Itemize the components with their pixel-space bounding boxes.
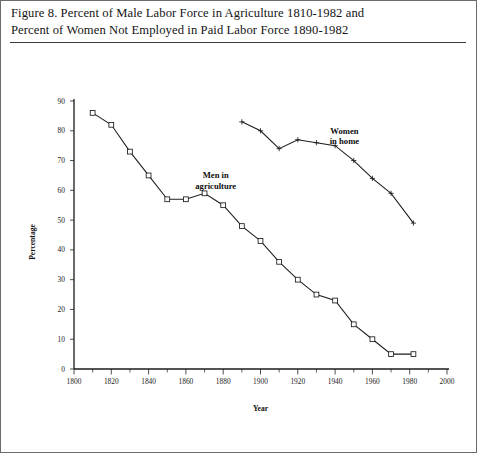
series-line [93, 113, 414, 354]
data-point-marker [165, 197, 170, 202]
x-tick-label: 1900 [253, 377, 268, 386]
data-point-marker [277, 259, 282, 264]
caption-line-2: Percent of Women Not Employed in Paid La… [11, 22, 463, 39]
x-tick-label: 1840 [141, 377, 156, 386]
data-point-marker [239, 224, 244, 229]
y-axis-tick-labels: 0102030405060708090 [58, 97, 66, 374]
x-tick-label: 1820 [104, 377, 119, 386]
data-series-group [90, 111, 416, 357]
data-point-marker [202, 191, 207, 196]
caption-divider [10, 42, 466, 43]
x-tick-label: 1940 [328, 377, 343, 386]
x-tick-label: 2000 [440, 377, 455, 386]
y-tick-label: 70 [58, 156, 66, 165]
x-axis-label: Year [253, 404, 269, 413]
x-tick-label: 1980 [402, 377, 417, 386]
data-point-marker [128, 149, 133, 154]
figure-caption: Figure 8. Percent of Male Labor Force in… [11, 5, 463, 38]
y-tick-label: 40 [58, 245, 66, 254]
y-tick-label: 60 [58, 186, 66, 195]
chart-canvas: 0102030405060708090 18001820184018601880… [1, 47, 477, 447]
figure-page: Figure 8. Percent of Male Labor Force in… [0, 0, 477, 453]
series-annotations: Men inagricultureWomenin home [195, 126, 359, 191]
caption-line-1: Figure 8. Percent of Male Labor Force in… [11, 5, 463, 22]
x-axis-ticks [74, 369, 447, 375]
data-point-marker [389, 352, 394, 357]
y-tick-label: 80 [58, 126, 66, 135]
x-axis-tick-labels: 1800182018401860188019001920194019601980… [67, 377, 455, 386]
data-point-marker [333, 298, 338, 303]
data-point-marker [258, 239, 263, 244]
data-point-marker [184, 197, 189, 202]
data-point-marker [109, 122, 114, 127]
series-annotation-2: Womenin home [330, 126, 360, 147]
y-axis-label: Percentage [28, 224, 37, 260]
series-2 [239, 119, 416, 225]
data-point-marker [295, 277, 300, 282]
data-point-marker [351, 322, 356, 327]
x-tick-label: 1880 [216, 377, 231, 386]
x-tick-label: 1960 [365, 377, 380, 386]
data-point-marker [370, 337, 375, 342]
y-tick-label: 0 [61, 365, 65, 374]
data-point-marker [146, 173, 151, 178]
chart-figure: 0102030405060708090 18001820184018601880… [1, 47, 477, 447]
y-tick-label: 30 [58, 275, 66, 284]
series-annotation-1: Men inagriculture [195, 170, 236, 191]
data-point-marker [314, 292, 319, 297]
series-1 [90, 111, 416, 357]
data-point-marker [221, 203, 226, 208]
x-tick-label: 1800 [67, 377, 82, 386]
x-tick-label: 1860 [179, 377, 194, 386]
series-line [242, 122, 414, 223]
y-tick-label: 10 [58, 335, 66, 344]
y-tick-label: 50 [58, 216, 66, 225]
data-point-marker [411, 352, 416, 357]
y-tick-label: 90 [58, 97, 66, 106]
y-tick-label: 20 [58, 305, 66, 314]
data-point-marker [90, 111, 95, 116]
x-tick-label: 1920 [290, 377, 305, 386]
